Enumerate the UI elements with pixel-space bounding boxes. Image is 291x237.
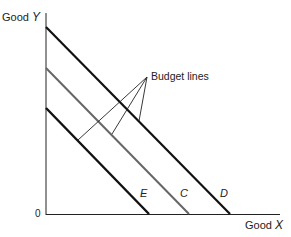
budget-line-c	[46, 68, 189, 214]
line-label-e: E	[140, 187, 147, 199]
y-axis-label: Good Y	[2, 10, 40, 24]
line-label-d: D	[220, 187, 228, 199]
annotation-pointers	[78, 77, 147, 140]
line-label-c: C	[180, 187, 188, 199]
y-axis-var: Y	[32, 10, 40, 24]
annotation-label: Budget lines	[151, 70, 209, 82]
x-axis-var: X	[275, 218, 283, 232]
budget-line-e	[46, 108, 149, 214]
budget-line-d	[46, 27, 230, 214]
x-axis-label: Good X	[245, 218, 283, 232]
budget-lines-diagram	[0, 0, 291, 237]
y-axis-label-text: Good	[2, 11, 29, 23]
origin-label: 0	[35, 208, 41, 219]
x-axis-label-text: Good	[245, 219, 272, 231]
